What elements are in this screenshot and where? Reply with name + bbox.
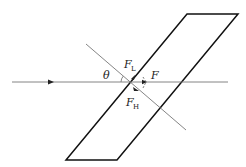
incident-arrow-icon [48,80,54,85]
force-f-arrow-icon [142,80,147,84]
theta-arc [121,76,123,82]
fl-subscript: L [131,65,136,73]
force-diagram: θ F L F F H [0,0,246,167]
slab-parallelogram [66,14,238,160]
force-fl-arrow-icon [131,75,135,80]
f-label: F [150,69,159,82]
theta-label: θ [103,69,110,82]
fh-subscript: H [133,103,139,111]
